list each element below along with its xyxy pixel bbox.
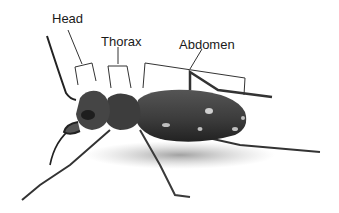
beetle-illustration — [0, 0, 339, 213]
abdomen-leader-line — [190, 49, 202, 69]
head-body — [76, 91, 110, 130]
elytra-spot — [198, 127, 203, 131]
antenna-upper — [47, 36, 76, 100]
elytra-spot — [241, 116, 245, 120]
mandibles — [64, 122, 80, 134]
label-abdomen: Abdomen — [179, 38, 235, 51]
label-thorax: Thorax — [101, 35, 141, 48]
abdomen-body — [135, 90, 246, 142]
front-leg — [22, 130, 110, 200]
elytra-spot — [162, 123, 170, 127]
thorax-bracket — [108, 66, 131, 88]
compound-eye — [81, 110, 95, 120]
label-head: Head — [52, 12, 83, 25]
elytra-spot — [232, 127, 238, 131]
head-leader-line — [68, 30, 82, 64]
head-bracket — [75, 63, 96, 85]
elytra-spot — [205, 108, 213, 114]
insect-anatomy-diagram: Head Thorax Abdomen — [0, 0, 339, 213]
abdomen-bracket — [143, 63, 245, 95]
